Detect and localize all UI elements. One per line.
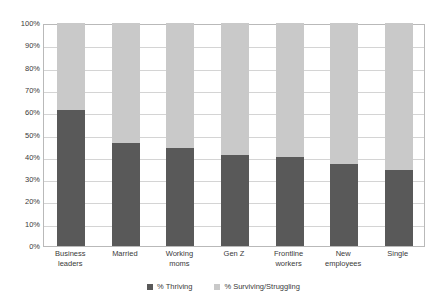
y-axis-tick-label: 100% — [4, 20, 40, 28]
legend-label: % Thriving — [157, 283, 192, 291]
y-axis-tick-label: 20% — [4, 199, 40, 207]
bar-segment[interactable] — [166, 148, 194, 246]
x-axis-tick-label: Single — [366, 249, 430, 259]
bar-group[interactable] — [385, 23, 413, 246]
y-axis-tick-label: 80% — [4, 65, 40, 73]
legend-item[interactable]: % Surviving/Struggling — [214, 283, 299, 291]
chart-legend: % Thriving% Surviving/Struggling — [0, 283, 447, 291]
y-axis-tick-mark — [36, 225, 40, 226]
y-axis-tick-mark — [36, 136, 40, 137]
y-axis-tick-label: 0% — [4, 243, 40, 251]
bar-group[interactable] — [57, 23, 85, 246]
y-axis-tick-mark — [36, 180, 40, 181]
bar-segment[interactable] — [221, 155, 249, 246]
legend-swatch-icon — [214, 284, 220, 290]
plot-area — [43, 24, 425, 247]
bar-group[interactable] — [276, 23, 304, 246]
bar-group[interactable] — [112, 23, 140, 246]
bar-segment[interactable] — [385, 23, 413, 170]
y-axis-tick-label: 70% — [4, 87, 40, 95]
bar-segment[interactable] — [385, 170, 413, 246]
x-axis: BusinessleadersMarriedWorkingmomsGen ZFr… — [43, 249, 425, 279]
bar-segment[interactable] — [330, 23, 358, 163]
y-axis-tick-label: 90% — [4, 43, 40, 51]
bar-segment[interactable] — [276, 157, 304, 246]
legend-swatch-icon — [147, 284, 153, 290]
legend-item[interactable]: % Thriving — [147, 283, 192, 291]
y-axis-tick-label: 60% — [4, 109, 40, 117]
y-axis-tick-label: 30% — [4, 176, 40, 184]
y-axis-tick-mark — [36, 46, 40, 47]
bar-segment[interactable] — [112, 23, 140, 143]
y-axis-tick-mark — [36, 247, 40, 248]
y-axis: 0%10%20%30%40%50%60%70%80%90%100% — [0, 24, 40, 247]
y-axis-tick-mark — [36, 24, 40, 25]
y-axis-tick-mark — [36, 158, 40, 159]
bar-segment[interactable] — [166, 23, 194, 148]
bar-group[interactable] — [166, 23, 194, 246]
bar-group[interactable] — [221, 23, 249, 246]
bar-segment[interactable] — [57, 110, 85, 246]
bar-segment[interactable] — [57, 23, 85, 110]
y-axis-tick-label: 10% — [4, 221, 40, 229]
legend-label: % Surviving/Struggling — [224, 283, 299, 291]
bar-segment[interactable] — [112, 143, 140, 246]
y-axis-tick-mark — [36, 69, 40, 70]
y-axis-tick-label: 50% — [4, 132, 40, 140]
bar-segment[interactable] — [330, 164, 358, 247]
y-axis-tick-mark — [36, 113, 40, 114]
bar-segment[interactable] — [276, 23, 304, 157]
stacked-bar-chart: 0%10%20%30%40%50%60%70%80%90%100% Busine… — [0, 0, 447, 303]
y-axis-tick-label: 40% — [4, 154, 40, 162]
y-axis-tick-mark — [36, 91, 40, 92]
y-axis-tick-mark — [36, 202, 40, 203]
bar-segment[interactable] — [221, 23, 249, 155]
bar-group[interactable] — [330, 23, 358, 246]
